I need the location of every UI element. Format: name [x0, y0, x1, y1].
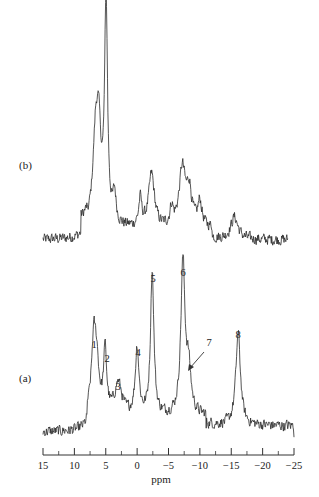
x-axis-ticks [43, 448, 294, 455]
arrow-peak-7 [188, 352, 204, 371]
x-axis-title: ppm [151, 474, 171, 485]
nmr-figure: (b) (a) 1 2 3 4 5 6 7 8 151050−5−10−15−2… [0, 0, 319, 497]
panel-label-a: (a) [19, 373, 31, 384]
panel-label-b: (b) [19, 160, 32, 171]
peak-label-4: 4 [135, 348, 140, 359]
x-tick-label: 0 [135, 461, 140, 472]
x-tick-label: −25 [286, 461, 302, 472]
peak-label-2: 2 [104, 354, 109, 365]
peak-label-7: 7 [206, 338, 211, 349]
x-tick-label: −10 [192, 461, 208, 472]
spectrum-plot [0, 0, 319, 497]
x-tick-label: 10 [69, 461, 80, 472]
spectrum-trace-b [43, 0, 288, 245]
x-tick-label: 5 [103, 461, 108, 472]
peak-label-8: 8 [235, 330, 240, 341]
x-tick-label: 15 [38, 461, 49, 472]
spectrum-trace-a [43, 255, 294, 438]
peak-label-6: 6 [180, 268, 185, 279]
peak-label-1: 1 [91, 340, 96, 351]
peak-label-3: 3 [115, 382, 120, 393]
x-tick-label: −5 [163, 461, 174, 472]
x-tick-label: −15 [223, 461, 239, 472]
peak-label-5: 5 [150, 274, 155, 285]
x-tick-label: −20 [254, 461, 270, 472]
